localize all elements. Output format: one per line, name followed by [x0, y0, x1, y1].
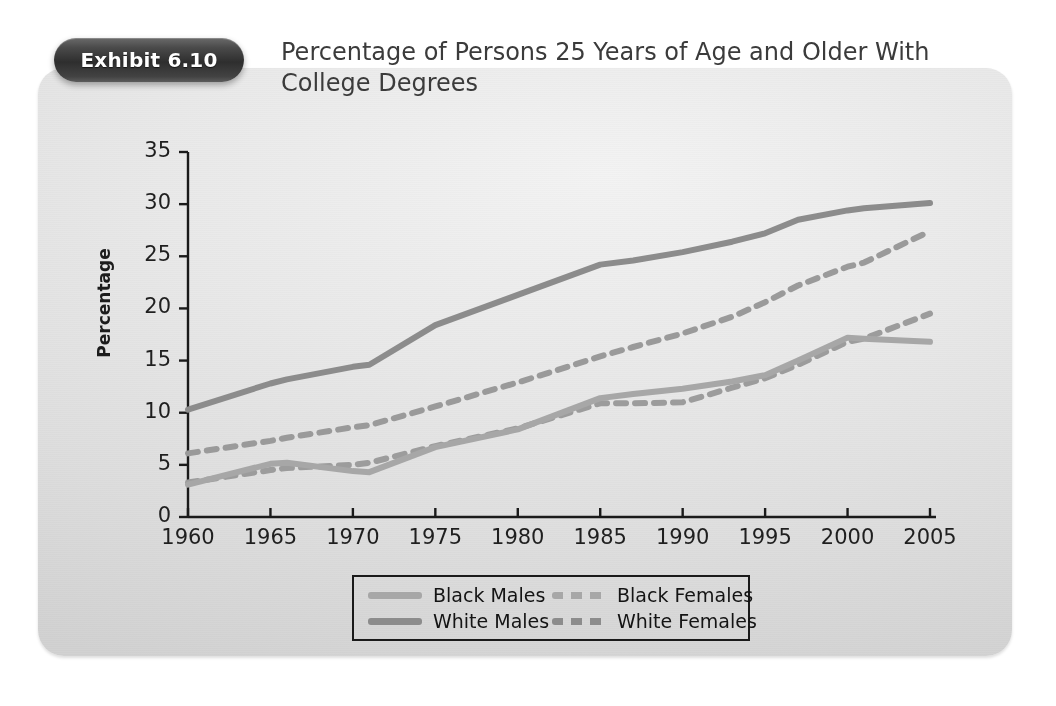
x-tick-label: 2005 [890, 525, 970, 549]
legend-item-white-females: White Females [552, 610, 757, 632]
y-tick-label: 0 [119, 503, 171, 527]
x-tick-label: 2000 [808, 525, 888, 549]
x-tick-label: 1980 [478, 525, 558, 549]
legend-item-white-males: White Males [368, 610, 549, 632]
legend-swatch-black-males-icon [368, 592, 422, 599]
legend-swatch-white-females-icon [552, 618, 606, 625]
x-tick-label: 1995 [725, 525, 805, 549]
exhibit-title: Percentage of Persons 25 Years of Age an… [281, 37, 941, 99]
legend-swatch-white-males-icon [368, 618, 422, 625]
x-tick-label: 1990 [643, 525, 723, 549]
y-tick-label: 10 [119, 399, 171, 423]
legend-label-white-females: White Females [617, 610, 757, 632]
legend-swatch-black-females-icon [552, 592, 606, 599]
exhibit-badge-label: Exhibit 6.10 [80, 48, 217, 72]
legend-label-white-males: White Males [433, 610, 549, 632]
y-tick-label: 20 [119, 294, 171, 318]
exhibit-badge: Exhibit 6.10 [54, 38, 244, 82]
x-tick-label: 1960 [148, 525, 228, 549]
series-line-black-males [188, 338, 930, 485]
series-line-white-females [188, 231, 930, 453]
series-line-black-females [188, 314, 930, 483]
legend-item-black-females: Black Females [552, 584, 753, 606]
y-tick-label: 35 [119, 138, 171, 162]
y-tick-label: 25 [119, 242, 171, 266]
exhibit-figure: Exhibit 6.10 Percentage of Persons 25 Ye… [0, 0, 1056, 706]
x-tick-label: 1965 [230, 525, 310, 549]
legend-label-black-males: Black Males [433, 584, 545, 606]
x-tick-label: 1985 [560, 525, 640, 549]
y-axis-label: Percentage [94, 248, 114, 357]
y-tick-label: 30 [119, 190, 171, 214]
x-tick-label: 1970 [313, 525, 393, 549]
legend-label-black-females: Black Females [617, 584, 753, 606]
legend-item-black-males: Black Males [368, 584, 545, 606]
series-line-white-males [188, 203, 930, 409]
y-tick-label: 5 [119, 451, 171, 475]
y-tick-label: 15 [119, 347, 171, 371]
x-tick-label: 1975 [395, 525, 475, 549]
chart-legend: Black Males Black Females White Males Wh… [352, 575, 750, 641]
